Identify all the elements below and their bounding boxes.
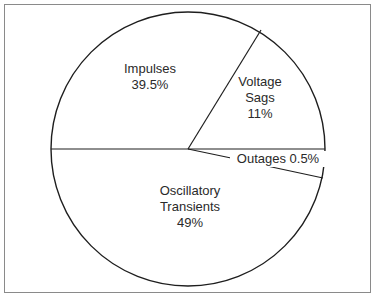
- outages-text: Outages 0.5%: [230, 151, 326, 167]
- slice-label-outages: Outages 0.5%: [230, 151, 326, 167]
- impulses-pct: 39.5%: [110, 77, 190, 93]
- pie-chart: [0, 0, 376, 298]
- oscillatory-line2: Transients: [143, 199, 237, 215]
- oscillatory-line1: Oscillatory: [143, 183, 237, 199]
- voltage-sags-line2: Sags: [230, 90, 290, 106]
- slice-label-oscillatory-transients: Oscillatory Transients 49%: [143, 183, 237, 231]
- oscillatory-pct: 49%: [143, 215, 237, 231]
- slice-label-voltage-sags: Voltage Sags 11%: [230, 74, 290, 122]
- voltage-sags-pct: 11%: [230, 106, 290, 122]
- voltage-sags-line1: Voltage: [230, 74, 290, 90]
- impulses-name: Impulses: [110, 61, 190, 77]
- slice-label-impulses: Impulses 39.5%: [110, 61, 190, 93]
